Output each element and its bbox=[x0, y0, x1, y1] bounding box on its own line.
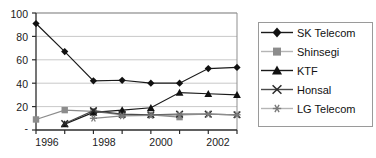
data-point-diamond bbox=[233, 64, 240, 71]
legend-label: KTF bbox=[295, 65, 318, 77]
data-point-diamond bbox=[147, 80, 154, 87]
data-point-asterisk bbox=[90, 115, 97, 121]
legend-label: SK Telecom bbox=[295, 27, 356, 39]
data-point-square bbox=[62, 107, 68, 113]
legend-item-shinsegi: Shinsegi bbox=[259, 42, 372, 61]
chart-legend: SK Telecom Shinsegi KTF Honsal bbox=[258, 22, 373, 127]
legend-label: Shinsegi bbox=[295, 46, 339, 58]
legend-key-asterisk-icon bbox=[259, 99, 295, 118]
data-point-square bbox=[33, 116, 39, 122]
legend-item-sk-telecom: SK Telecom bbox=[259, 23, 372, 42]
data-point-diamond bbox=[176, 80, 183, 87]
legend-key-square-icon bbox=[259, 42, 295, 61]
series-sk-telecom bbox=[32, 20, 240, 87]
legend-label: Honsal bbox=[295, 84, 331, 96]
legend-item-honsal: Honsal bbox=[259, 80, 372, 99]
legend-item-lg-telecom: LG Telecom bbox=[259, 99, 372, 118]
data-point-diamond bbox=[205, 65, 212, 72]
series-ktf bbox=[61, 89, 241, 128]
line-chart: 100 80 60 40 20 - 1996 1998 2000 2002 SK… bbox=[0, 0, 376, 158]
legend-label: LG Telecom bbox=[295, 103, 356, 115]
legend-key-diamond-icon bbox=[259, 23, 295, 42]
legend-key-triangle-icon bbox=[259, 61, 295, 80]
legend-key-x-icon bbox=[259, 80, 295, 99]
legend-item-ktf: KTF bbox=[259, 61, 372, 80]
